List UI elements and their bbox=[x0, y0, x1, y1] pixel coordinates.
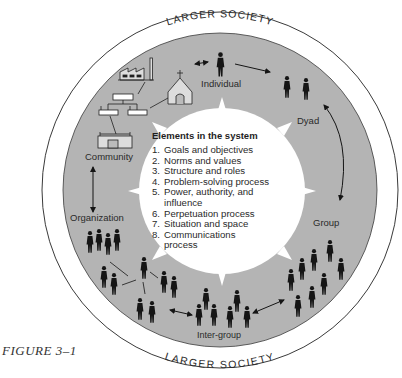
building-icon bbox=[98, 132, 132, 148]
figure-caption: FIGURE 3–1 bbox=[2, 343, 77, 359]
elements-panel-title: Elements in the system bbox=[152, 130, 302, 141]
level-label-organization: Organization bbox=[70, 212, 124, 223]
element-item: 5.Power, authority, and influence bbox=[152, 187, 302, 208]
element-item: 1.Goals and objectives bbox=[152, 145, 302, 156]
level-label-dyad: Dyad bbox=[297, 115, 319, 126]
elements-list: 1.Goals and objectives 2.Norms and value… bbox=[152, 145, 302, 251]
level-label-community: Community bbox=[85, 151, 133, 162]
level-label-individual: Individual bbox=[201, 78, 241, 89]
level-label-group: Group bbox=[313, 217, 339, 228]
element-item: 8.Communications process bbox=[152, 230, 302, 251]
elements-panel: Elements in the system 1.Goals and objec… bbox=[152, 130, 302, 251]
level-label-inter-group: Inter-group bbox=[197, 330, 241, 340]
